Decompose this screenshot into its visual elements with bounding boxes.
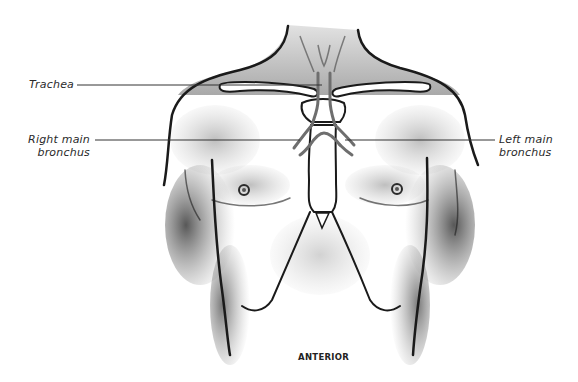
label-left-main-bronchus-line2: bronchus — [499, 146, 553, 159]
label-left-main-bronchus: Left main bronchus — [499, 133, 553, 159]
view-caption: ANTERIOR — [298, 352, 349, 362]
label-right-main-bronchus-line2: bronchus — [20, 146, 90, 159]
sternum — [302, 99, 346, 228]
label-right-main-bronchus-line1: Right main — [20, 133, 90, 146]
label-right-main-bronchus: Right main bronchus — [20, 133, 90, 159]
label-trachea: Trachea — [29, 78, 74, 91]
anterior-chest-illustration — [0, 0, 578, 382]
label-left-main-bronchus-line1: Left main — [499, 133, 553, 146]
